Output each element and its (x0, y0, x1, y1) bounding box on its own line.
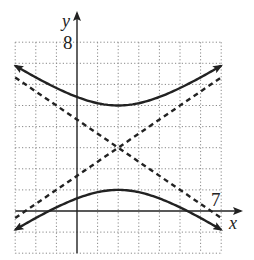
hyperbola-chart: y 8 7 x (0, 0, 254, 260)
x-tick-label-7: 7 (211, 189, 221, 210)
y-tick-label-8: 8 (63, 32, 73, 53)
y-axis-label: y (60, 11, 70, 31)
grid (15, 42, 221, 253)
x-axis-label: x (228, 213, 237, 233)
axes (15, 13, 241, 253)
